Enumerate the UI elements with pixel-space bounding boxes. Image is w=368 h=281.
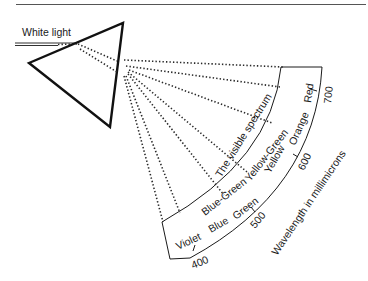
tick-700: 700 (321, 85, 335, 104)
color-label-red: Red (301, 82, 316, 103)
prism (29, 23, 123, 127)
color-label-blue: Blue (206, 214, 230, 235)
tick-500: 500 (247, 209, 268, 230)
internal-rays (78, 44, 117, 72)
tick-400: 400 (189, 253, 210, 271)
prism-dispersion-diagram: White light The (0, 0, 368, 281)
dispersed-rays (124, 60, 283, 222)
color-label-violet: Violet (174, 230, 203, 252)
color-label-orange: Orange (286, 110, 311, 147)
white-light-label: White light (22, 26, 71, 38)
tick-600: 600 (295, 151, 314, 172)
